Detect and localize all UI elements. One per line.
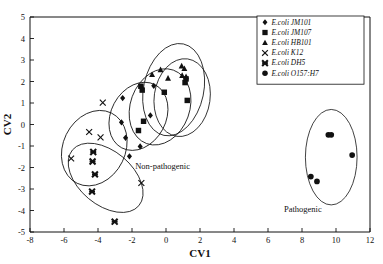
x-axis-title: CV1 (189, 247, 210, 259)
y-tick-label: 3 (21, 55, 25, 65)
y-tick-label: -1 (18, 141, 25, 151)
dh5-ellipse (55, 129, 156, 226)
x-tick-label: 6 (266, 235, 270, 245)
x-tick-label: 0 (164, 235, 168, 245)
legend-item-label: E.coli JM101 (271, 18, 312, 27)
x-tick-label: 2 (198, 235, 202, 245)
y-tick-label: 2 (21, 77, 25, 87)
data-point (68, 156, 74, 162)
data-point (138, 180, 144, 186)
y-tick-label: -4 (18, 206, 26, 216)
data-point (98, 134, 104, 140)
y-tick-label: 0 (21, 120, 25, 130)
x-tick-label: -4 (94, 235, 102, 245)
legend[interactable]: E.coli JM101E.coli JM107E.coli HB101E.co… (257, 16, 364, 84)
legend-marker (262, 30, 267, 35)
legend-item-label: E.coli K12 (271, 48, 304, 57)
data-point (308, 174, 314, 180)
group-annotations: Non-pathogenicPathogenic (135, 161, 322, 214)
x-tick-label: -6 (60, 235, 67, 245)
y-tick-label: 4 (21, 34, 26, 44)
data-point (165, 75, 171, 81)
data-point (127, 153, 132, 159)
y-tick-label: 5 (21, 12, 25, 22)
data-point (92, 171, 98, 177)
data-point (86, 129, 92, 135)
data-point (120, 95, 125, 101)
y-axis-title: CV2 (1, 113, 13, 135)
data-point (90, 159, 96, 165)
data-point (349, 152, 355, 158)
data-point (89, 189, 95, 195)
data-point (139, 87, 144, 92)
scatter-plot: -8-6-4-2024681012-5-4-3-2-1012345 Non-pa… (0, 0, 383, 264)
data-point (148, 112, 153, 118)
data-point (185, 98, 190, 103)
data-point (314, 179, 320, 185)
data-point (90, 149, 96, 155)
series-e-coli-jm101 (119, 83, 156, 160)
legend-marker (262, 71, 268, 77)
data-point (100, 100, 106, 106)
x-tick-label: 10 (332, 235, 341, 245)
y-tick-label: -2 (18, 163, 25, 173)
figure-container: -8-6-4-2024681012-5-4-3-2-1012345 Non-pa… (0, 0, 383, 264)
data-point (328, 132, 334, 138)
hb101-ellipse (134, 38, 212, 142)
y-tick-label: -3 (18, 184, 25, 194)
annotation-label: Pathogenic (284, 204, 322, 214)
data-point (162, 90, 167, 95)
pathogenic-ellipse (305, 109, 357, 204)
legend-item-label: E.coli HB101 (271, 38, 312, 47)
jm107-ellipse (119, 60, 202, 154)
legend-item-label: E.coli JM107 (271, 28, 312, 37)
x-tick-label: 12 (366, 235, 375, 245)
legend-item-label: E.coli O157:H7 (271, 69, 320, 78)
y-tick-label: 1 (21, 98, 25, 108)
y-tick-label: -5 (18, 227, 25, 237)
series-e-coli-o157-h7 (308, 132, 355, 184)
data-point (112, 219, 118, 225)
k12-ellipse (49, 99, 139, 197)
data-point (149, 71, 155, 77)
data-point (136, 128, 141, 133)
data-point (141, 119, 146, 124)
legend-item-label: E.coli DH5 (271, 58, 306, 67)
data-points (68, 63, 355, 225)
annotation-label: Non-pathogenic (135, 161, 190, 171)
legend-item[interactable]: E.coli O157:H7 (262, 69, 319, 78)
x-tick-label: 8 (300, 235, 304, 245)
x-tick-label: -2 (128, 235, 135, 245)
x-tick-label: 4 (232, 235, 237, 245)
series-e-coli-hb101 (149, 63, 189, 81)
series-e-coli-dh5 (89, 149, 118, 225)
series-e-coli-k12 (68, 100, 144, 186)
x-tick-label: -8 (26, 235, 33, 245)
